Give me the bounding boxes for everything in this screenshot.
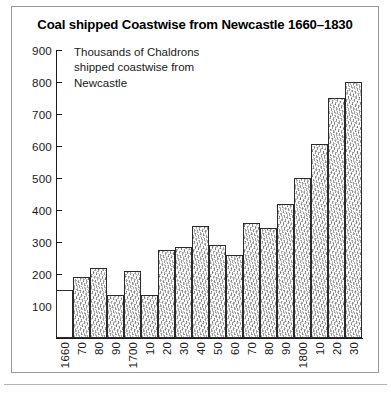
x-axis-tick-label: 20 <box>328 340 345 370</box>
y-axis-tick-label: 400 <box>32 204 52 217</box>
bar <box>328 98 345 338</box>
chart-annotation: Thousands of Chaldronsshipped coastwise … <box>74 45 199 91</box>
bar <box>56 290 73 338</box>
x-axis-tick-label: 50 <box>209 340 226 370</box>
y-axis-tick-label: 800 <box>32 76 52 89</box>
chart-frame: Coal shipped Coastwise from Newcastle 16… <box>11 6 379 373</box>
bar <box>243 223 260 338</box>
bar <box>277 204 294 338</box>
x-axis-tick-label: 30 <box>345 340 362 370</box>
bottom-divider <box>4 384 387 385</box>
x-axis-line <box>56 338 363 339</box>
x-axis-tick-label: 80 <box>260 340 277 370</box>
x-axis-tick-label: 1660 <box>56 340 73 370</box>
x-axis-tick-label: 30 <box>175 340 192 370</box>
bar <box>311 144 328 338</box>
y-axis-tick-label: 300 <box>32 236 52 249</box>
y-axis-tick-label: 200 <box>32 268 52 281</box>
x-axis-tick-label: 10 <box>311 340 328 370</box>
annotation-line: Thousands of Chaldrons <box>74 45 199 60</box>
x-axis-tick-label: 70 <box>243 340 260 370</box>
x-axis-tick-label: 40 <box>192 340 209 370</box>
x-axis-labels: 1660708090170010203040506070809018001020… <box>56 340 362 374</box>
y-axis-tick-label: 500 <box>32 172 52 185</box>
bar <box>209 245 226 338</box>
bar <box>175 247 192 338</box>
y-axis-tick-label: 100 <box>32 300 52 313</box>
bar <box>345 82 362 338</box>
y-axis-tick-label: 700 <box>32 108 52 121</box>
annotation-line: shipped coastwise from <box>74 60 199 75</box>
bar-series <box>56 50 362 338</box>
bar <box>158 250 175 338</box>
bar <box>294 178 311 338</box>
x-axis-tick-label: 1700 <box>124 340 141 370</box>
x-axis-tick-label: 1800 <box>294 340 311 370</box>
annotation-line: Newcastle <box>74 76 199 91</box>
x-axis-tick-label: 80 <box>90 340 107 370</box>
x-axis-tick-label: 60 <box>226 340 243 370</box>
x-axis-tick-label: 20 <box>158 340 175 370</box>
x-axis-tick-label: 70 <box>73 340 90 370</box>
bar <box>107 295 124 338</box>
bar <box>124 271 141 338</box>
x-axis-tick-label: 10 <box>141 340 158 370</box>
bar <box>226 255 243 338</box>
x-axis-tick-label: 90 <box>107 340 124 370</box>
y-axis-tick-label: 900 <box>32 44 52 57</box>
bar <box>90 268 107 338</box>
x-axis-tick-label: 90 <box>277 340 294 370</box>
bar <box>141 295 158 338</box>
bar <box>260 228 277 338</box>
bar <box>73 277 90 338</box>
bar <box>192 226 209 338</box>
y-axis-tick-label: 600 <box>32 140 52 153</box>
page-title: Coal shipped Coastwise from Newcastle 16… <box>12 17 378 32</box>
